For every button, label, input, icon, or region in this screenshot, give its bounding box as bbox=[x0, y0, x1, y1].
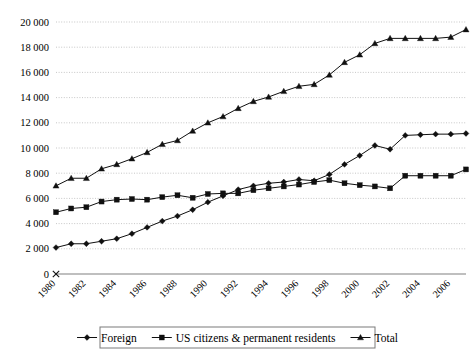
y-tick-label: 6 000 bbox=[25, 193, 49, 204]
data-point bbox=[433, 173, 438, 178]
chart-container: 02 0004 0006 0008 00010 00012 00014 0001… bbox=[0, 0, 474, 361]
legend-item-us-citizens-permanent-residents[interactable]: US citizens & permanent residents bbox=[152, 332, 336, 345]
y-tick-label: 4 000 bbox=[25, 218, 49, 229]
x-axis-tick-labels: 1980198219841986198819901992199419961998… bbox=[35, 278, 452, 300]
data-point bbox=[463, 131, 469, 137]
x-tick-label: 2002 bbox=[370, 278, 392, 300]
data-point bbox=[99, 238, 105, 244]
data-point bbox=[145, 197, 150, 202]
data-point bbox=[221, 191, 226, 196]
legend-item-foreign[interactable]: Foreign bbox=[77, 332, 137, 345]
legend-marker-square-icon bbox=[159, 335, 164, 340]
x-tick-label: 2004 bbox=[400, 278, 422, 300]
data-point bbox=[403, 173, 408, 178]
data-point bbox=[129, 231, 135, 237]
data-point bbox=[190, 207, 196, 213]
x-tick-label: 2000 bbox=[339, 278, 361, 300]
x-tick-label: 1988 bbox=[157, 278, 179, 300]
data-point bbox=[174, 137, 180, 142]
line-chart: 02 0004 0006 0008 00010 00012 00014 0001… bbox=[0, 0, 474, 361]
data-point bbox=[464, 167, 469, 172]
data-point bbox=[388, 186, 393, 191]
series-foreign bbox=[53, 131, 469, 251]
data-point bbox=[175, 213, 181, 219]
data-point bbox=[220, 113, 226, 118]
y-axis-tick-labels: 02 0004 0006 0008 00010 00012 00014 0001… bbox=[20, 17, 49, 280]
x-tick-label: 1980 bbox=[35, 278, 57, 300]
data-point bbox=[69, 206, 74, 211]
data-point bbox=[114, 197, 119, 202]
data-point bbox=[372, 184, 377, 189]
data-point bbox=[296, 177, 302, 183]
data-point bbox=[311, 81, 317, 86]
data-point bbox=[53, 245, 59, 251]
x-tick-label: 1982 bbox=[66, 278, 88, 300]
y-tick-label: 16 000 bbox=[20, 67, 49, 78]
data-point bbox=[114, 236, 120, 242]
data-point bbox=[205, 191, 210, 196]
data-point bbox=[84, 205, 89, 210]
data-point bbox=[54, 210, 59, 215]
x-tick-label: 1986 bbox=[127, 278, 149, 300]
legend-label: Total bbox=[375, 332, 398, 344]
data-point bbox=[372, 143, 378, 149]
data-point bbox=[326, 172, 332, 178]
x-tick-label: 2006 bbox=[430, 278, 452, 300]
x-tick-label: 1998 bbox=[309, 278, 331, 300]
data-point bbox=[341, 59, 347, 64]
data-point bbox=[357, 52, 363, 57]
data-point bbox=[357, 183, 362, 188]
data-point bbox=[83, 241, 89, 247]
series-us-citizens-permanent-residents bbox=[54, 167, 469, 215]
data-point bbox=[236, 191, 241, 196]
y-tick-label: 18 000 bbox=[20, 42, 49, 53]
data-point bbox=[296, 182, 301, 187]
series-line bbox=[56, 134, 466, 248]
legend-marker-diamond-icon bbox=[84, 335, 90, 341]
y-tick-label: 2 000 bbox=[25, 243, 49, 254]
data-point bbox=[99, 199, 104, 204]
y-tick-label: 12 000 bbox=[20, 117, 49, 128]
data-point bbox=[357, 153, 363, 159]
data-point bbox=[160, 195, 165, 200]
y-tick-label: 8 000 bbox=[25, 168, 49, 179]
data-point bbox=[190, 128, 196, 133]
legend-label: Foreign bbox=[101, 332, 137, 345]
chart-legend[interactable]: ForeignUS citizens & permanent residents… bbox=[77, 327, 398, 348]
data-point bbox=[251, 188, 256, 193]
data-point bbox=[342, 161, 348, 167]
legend-label: US citizens & permanent residents bbox=[176, 332, 336, 345]
data-point bbox=[312, 180, 317, 185]
x-tick-label: 1994 bbox=[248, 278, 270, 300]
data-point bbox=[448, 34, 454, 39]
x-tick-label: 1992 bbox=[218, 278, 240, 300]
x-tick-label: 1996 bbox=[278, 278, 300, 300]
data-point bbox=[159, 218, 165, 224]
data-point bbox=[342, 181, 347, 186]
data-point bbox=[190, 195, 195, 200]
data-point bbox=[433, 131, 439, 137]
data-series bbox=[53, 27, 469, 278]
data-point bbox=[463, 27, 469, 32]
data-point bbox=[235, 105, 241, 110]
data-point bbox=[266, 180, 272, 186]
data-point bbox=[418, 132, 424, 138]
data-point bbox=[144, 149, 150, 154]
y-tick-label: 10 000 bbox=[20, 143, 49, 154]
data-point bbox=[53, 183, 59, 188]
y-tick-label: 14 000 bbox=[20, 92, 49, 103]
data-point bbox=[68, 241, 74, 247]
data-point bbox=[418, 173, 423, 178]
y-tick-label: 20 000 bbox=[20, 17, 49, 28]
data-point bbox=[448, 173, 453, 178]
data-point bbox=[144, 224, 150, 230]
series-total bbox=[53, 27, 469, 189]
data-point bbox=[205, 199, 211, 205]
data-point bbox=[175, 193, 180, 198]
data-point bbox=[281, 184, 286, 189]
data-point bbox=[129, 197, 134, 202]
data-point bbox=[448, 131, 454, 137]
data-point bbox=[327, 178, 332, 183]
x-tick-label: 1984 bbox=[96, 278, 118, 300]
data-point bbox=[266, 186, 271, 191]
